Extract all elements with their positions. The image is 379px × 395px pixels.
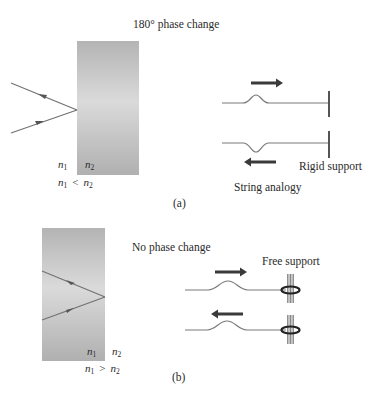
free-support-label: Free support: [262, 255, 321, 268]
arrow-left-icon: [244, 158, 276, 167]
light-rays-a: [11, 83, 77, 133]
arrow-left-icon: [211, 310, 243, 319]
reflected-ray-arrowhead-icon: [38, 94, 47, 99]
reflected-inverted-pulse-string: [222, 143, 329, 152]
n1-label-a: n1: [58, 158, 68, 172]
medium-slab-n2: [77, 41, 139, 175]
panel-a-title: 180° phase change: [133, 18, 219, 31]
string-analogy-free: Free support: [185, 255, 321, 344]
free-support-post-bottom: [287, 315, 294, 344]
string-analogy-rigid: Rigid support String analogy: [222, 79, 363, 195]
arrow-right-icon: [215, 268, 247, 277]
rigid-support-label: Rigid support: [299, 160, 363, 173]
arrow-right-icon: [251, 79, 283, 88]
free-support-post-top: [287, 274, 294, 303]
reflection-phase-change-diagram: 180° phase change n1 n2 n1<n2 Rigid supp…: [0, 0, 379, 395]
incident-ray: [11, 110, 77, 133]
panel-a: 180° phase change n1 n2 n1<n2 Rigid supp…: [11, 18, 363, 210]
diagram-canvas: 180° phase change n1 n2 n1<n2 Rigid supp…: [0, 0, 379, 395]
incident-pulse-string-free: [185, 281, 286, 290]
medium-slab-n1: [42, 228, 105, 361]
index-relation-a: n1<n2: [58, 176, 93, 190]
n2-label-b: n2: [112, 345, 122, 359]
string-analogy-label: String analogy: [234, 181, 302, 194]
index-relation-b: n1>n2: [85, 362, 120, 376]
reflected-upright-pulse-string: [185, 321, 286, 330]
panel-a-caption: (a): [173, 197, 186, 210]
incident-pulse-string: [222, 95, 329, 103]
panel-b: No phase change n1 n2 n1>n2 Free support…: [42, 228, 321, 384]
panel-b-caption: (b): [172, 371, 186, 384]
panel-b-title: No phase change: [132, 241, 211, 254]
